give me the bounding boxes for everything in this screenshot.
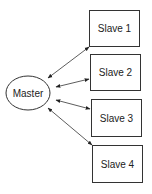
slave-3-label: Slave 3 <box>100 113 134 124</box>
master-node: Master <box>6 76 50 110</box>
master-slave-diagram: Master Slave 1 Slave 2 Slave 3 Slave 4 <box>0 0 152 194</box>
slave-2-label: Slave 2 <box>99 67 133 78</box>
slave-1-node: Slave 1 <box>90 11 140 47</box>
slave-3-node: Slave 3 <box>92 100 142 137</box>
slave-2-node: Slave 2 <box>91 55 141 91</box>
slave-1-label: Slave 1 <box>98 23 132 34</box>
slave-4-label: Slave 4 <box>101 159 135 170</box>
slave-4-node: Slave 4 <box>93 146 143 183</box>
master-label: Master <box>13 88 44 99</box>
edge-master-slave-1 <box>48 47 89 78</box>
edge-master-slave-4 <box>48 108 92 145</box>
edge-master-slave-2 <box>56 79 89 87</box>
edge-master-slave-3 <box>56 100 90 109</box>
